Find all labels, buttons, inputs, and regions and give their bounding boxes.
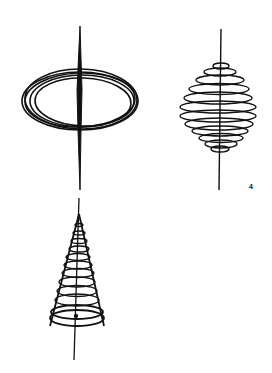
ellipse-loops-with-spindle-drawing <box>22 26 138 190</box>
figure-number-label: 4 <box>249 183 253 190</box>
cone-spiral-drawing <box>50 198 104 360</box>
spiral-bulb-drawing <box>180 29 256 190</box>
figure-canvas: 4 <box>0 0 272 373</box>
